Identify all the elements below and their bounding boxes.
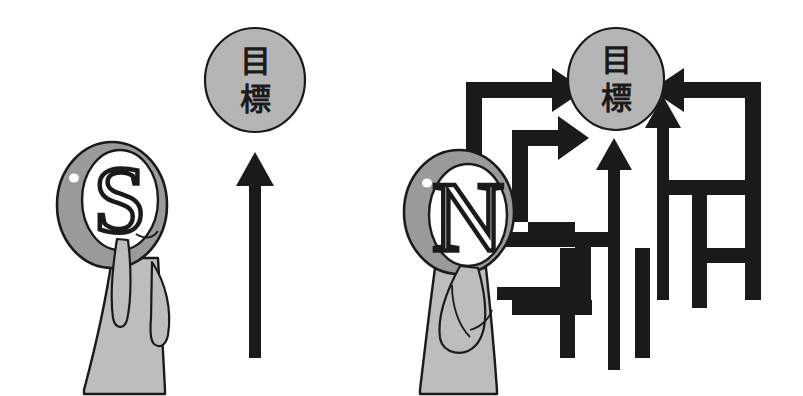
maze-connector-left-mid: [505, 232, 615, 247]
goal-bubble-left: 目 標: [205, 28, 305, 132]
illustration-canvas: 目 標 S: [0, 0, 803, 396]
person-n-head-highlight: [422, 179, 432, 188]
person-s-head-letter: S: [93, 146, 146, 253]
goal-bubble-right: 目 標: [568, 28, 664, 130]
maze-connector-bottom-left: [512, 300, 592, 315]
goal-label-char-1: 目: [240, 43, 271, 79]
goal-right-label-char-2: 標: [601, 80, 632, 116]
goal-label-char-2: 標: [240, 81, 271, 117]
maze-connector-right-lower: [692, 248, 750, 263]
person-n-head-letter: N: [432, 161, 504, 272]
scene-svg: 目 標 S: [0, 0, 803, 396]
goal-right-label-char-1: 目: [601, 42, 632, 78]
person-s-head-highlight: [69, 174, 79, 183]
maze-stub-center-right: [635, 248, 650, 358]
